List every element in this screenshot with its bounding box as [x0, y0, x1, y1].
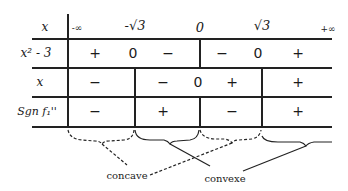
- convexe-label: convexe: [204, 173, 245, 184]
- concave-label: concave: [106, 170, 147, 181]
- concave-brace-1: [68, 130, 134, 144]
- convexe-connector-1: [170, 144, 210, 166]
- concave-connector-2: [150, 143, 232, 175]
- convexe-brace-1: [135, 130, 199, 144]
- convexe-connector-2: [243, 146, 306, 171]
- convexity-braces: [0, 0, 348, 191]
- concave-brace-2: [200, 130, 261, 143]
- concave-connector-1: [102, 144, 127, 165]
- convexe-brace-2: [262, 136, 332, 146]
